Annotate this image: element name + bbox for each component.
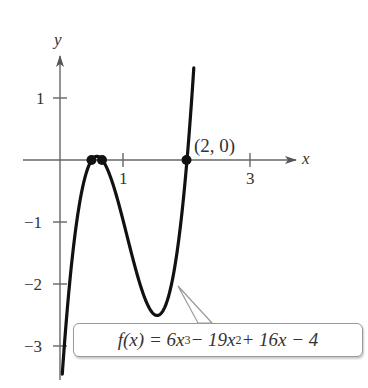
y-tick-label-neg1: −1 xyxy=(24,214,42,231)
x-axis-label: x xyxy=(302,150,310,167)
x-tick-label-1: 1 xyxy=(119,170,128,187)
zero-point-two xyxy=(182,155,192,165)
point-label-2-0: (2, 0) xyxy=(194,136,235,155)
function-rhs: + 16x − 4 xyxy=(241,329,318,351)
function-callout: f(x) = 6x3 − 19x2 + 16x − 4 xyxy=(73,323,363,357)
callout-pointer xyxy=(178,286,212,323)
y-axis-label: y xyxy=(54,31,62,48)
zero-point-two-thirds xyxy=(97,155,107,165)
zero-point-half xyxy=(87,155,97,165)
x-tick-label-3: 3 xyxy=(246,170,255,187)
function-lhs: f(x) = 6x xyxy=(118,329,185,351)
y-tick-label-1: 1 xyxy=(36,90,45,107)
y-tick-label-neg2: −2 xyxy=(24,276,42,293)
y-tick-label-neg3: −3 xyxy=(24,338,42,355)
function-mid: − 19x xyxy=(190,329,235,351)
